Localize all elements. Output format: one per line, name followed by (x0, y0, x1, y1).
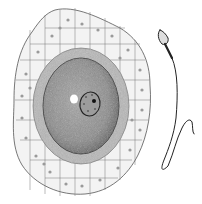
vacuole (70, 95, 78, 104)
sperm-tail (162, 58, 194, 169)
illustration-canvas (0, 0, 202, 204)
sperm-midpiece (165, 44, 172, 58)
sperm-head (158, 30, 168, 45)
sperm (158, 30, 194, 169)
